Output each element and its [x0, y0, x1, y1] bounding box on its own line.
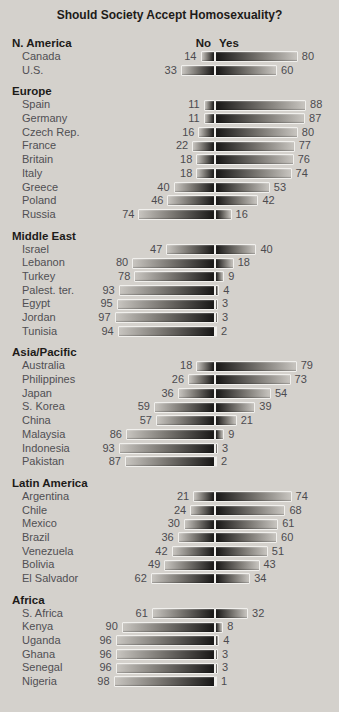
no-bar — [116, 635, 215, 646]
country-row-venezuela: Venezuela4251 — [0, 545, 339, 559]
no-value: 61 — [136, 607, 148, 621]
yes-bar — [215, 195, 258, 206]
yes-bar — [215, 573, 250, 584]
yes-bar — [215, 51, 298, 62]
country-row-u-s: U.S.3360 — [0, 64, 339, 78]
no-bar — [164, 560, 215, 571]
chart-body: N. AmericaCanada1480U.S.3360EuropeSpain1… — [0, 30, 339, 689]
yes-bar — [215, 141, 295, 152]
no-bar — [116, 663, 215, 674]
no-bar — [125, 456, 215, 467]
no-value: 18 — [180, 167, 192, 181]
yes-value: 80 — [302, 50, 314, 64]
yes-value: 3 — [222, 661, 228, 675]
no-bar — [204, 100, 215, 111]
country-row-mexico: Mexico3061 — [0, 517, 339, 531]
yes-value: 73 — [295, 373, 307, 387]
no-value: 24 — [174, 504, 186, 518]
no-value: 40 — [157, 181, 169, 195]
no-bar — [190, 505, 215, 516]
no-value: 14 — [184, 50, 196, 64]
country-row-germany: Germany1187 — [0, 112, 339, 126]
yes-value: 79 — [301, 359, 313, 373]
no-bar — [122, 622, 215, 633]
yes-value: 74 — [296, 490, 308, 504]
no-value: 98 — [97, 675, 109, 689]
country-label: Russia — [22, 208, 56, 222]
country-row-kenya: Kenya908 — [0, 620, 339, 634]
no-value: 21 — [177, 490, 189, 504]
yes-value: 51 — [272, 545, 284, 559]
yes-value: 8 — [227, 620, 233, 634]
country-row-nigeria: Nigeria981 — [0, 675, 339, 689]
country-label: Indonesia — [22, 442, 70, 456]
no-bar — [178, 532, 215, 543]
no-bar — [196, 361, 215, 372]
country-row-china: China5721 — [0, 414, 339, 428]
yes-value: 68 — [289, 504, 301, 518]
yes-bar — [215, 374, 291, 385]
no-value: 26 — [172, 373, 184, 387]
country-label: Jordan — [22, 311, 56, 325]
yes-value: 88 — [310, 98, 322, 112]
region-header-latin-america: Latin America — [0, 469, 339, 490]
yes-value: 18 — [238, 256, 250, 270]
country-row-palest-ter: Palest. ter.934 — [0, 284, 339, 298]
no-value: 93 — [102, 284, 114, 298]
country-row-israel: Israel4740 — [0, 243, 339, 257]
no-bar — [166, 244, 215, 255]
country-label: Brazil — [22, 531, 50, 545]
yes-value: 2 — [221, 325, 227, 339]
no-bar — [151, 573, 215, 584]
country-row-spain: Spain1188 — [0, 98, 339, 112]
yes-value: 3 — [222, 648, 228, 662]
no-bar — [196, 154, 215, 165]
country-label: Egypt — [22, 297, 50, 311]
yes-bar — [215, 182, 270, 193]
no-value: 36 — [161, 531, 173, 545]
yes-bar — [215, 622, 223, 633]
yes-value: 3 — [222, 297, 228, 311]
country-row-uganda: Uganda964 — [0, 634, 339, 648]
no-bar — [193, 491, 215, 502]
no-bar — [115, 312, 215, 323]
yes-bar — [215, 209, 232, 220]
country-row-bolivia: Bolivia4943 — [0, 558, 339, 572]
country-row-ghana: Ghana963 — [0, 648, 339, 662]
country-row-philippines: Philippines2673 — [0, 373, 339, 387]
country-row-australia: Australia1879 — [0, 359, 339, 373]
yes-value: 77 — [299, 139, 311, 153]
yes-value: 42 — [262, 194, 274, 208]
region-header-asia-pacific: Asia/Pacific — [0, 338, 339, 359]
yes-bar — [215, 519, 278, 530]
region-header-africa: Africa — [0, 586, 339, 607]
country-row-poland: Poland4642 — [0, 194, 339, 208]
yes-bar — [215, 429, 224, 440]
country-row-brazil: Brazil3660 — [0, 531, 339, 545]
yes-value: 54 — [275, 387, 287, 401]
country-label: Israel — [22, 243, 49, 257]
yes-value: 60 — [281, 64, 293, 78]
yes-value: 16 — [236, 208, 248, 222]
yes-value: 80 — [302, 126, 314, 140]
yes-bar — [215, 100, 306, 111]
region-header-middle-east: Middle East — [0, 222, 339, 243]
yes-bar — [215, 415, 237, 426]
yes-bar — [215, 560, 260, 571]
no-bar — [192, 141, 215, 152]
yes-value: 9 — [228, 270, 234, 284]
country-label: Uganda — [22, 634, 61, 648]
no-bar — [138, 209, 215, 220]
country-label: China — [22, 414, 51, 428]
yes-bar — [215, 456, 217, 467]
country-label: S. Africa — [22, 607, 63, 621]
yes-bar — [215, 258, 234, 269]
yes-bar — [215, 312, 218, 323]
no-value: 95 — [100, 297, 112, 311]
country-row-france: France2277 — [0, 139, 339, 153]
region-header-europe: Europe — [0, 77, 339, 98]
yes-bar — [215, 505, 285, 516]
no-bar — [154, 402, 215, 413]
no-bar — [172, 546, 215, 557]
no-value: 93 — [102, 442, 114, 456]
